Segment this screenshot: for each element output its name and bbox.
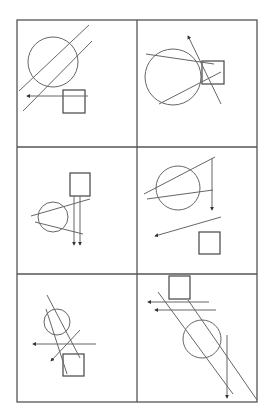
square-shape: [70, 173, 90, 196]
square-shape: [169, 276, 190, 299]
panel-grid: [17, 20, 257, 402]
panel-4: [144, 157, 221, 254]
arrow-up-left-icon: [188, 36, 221, 104]
circle-shape: [156, 166, 200, 210]
circle-shape: [28, 37, 78, 87]
line-segment: [31, 199, 90, 216]
line-segment: [19, 25, 89, 91]
panel-6: [148, 276, 257, 400]
line-segment: [188, 300, 257, 400]
line-segment: [23, 41, 92, 111]
panel-2: [145, 36, 224, 105]
panels: [19, 25, 257, 400]
line-segment: [46, 309, 67, 374]
panel-1: [19, 25, 92, 113]
panel-5: [33, 295, 96, 376]
panel-3: [31, 173, 90, 245]
line-segment: [144, 157, 215, 194]
line-segment: [146, 54, 214, 64]
arrow-left-icon: [155, 217, 221, 236]
square-shape: [199, 232, 220, 254]
line-segment: [158, 292, 233, 394]
square-shape: [63, 90, 85, 113]
figure-grid: [0, 0, 272, 408]
